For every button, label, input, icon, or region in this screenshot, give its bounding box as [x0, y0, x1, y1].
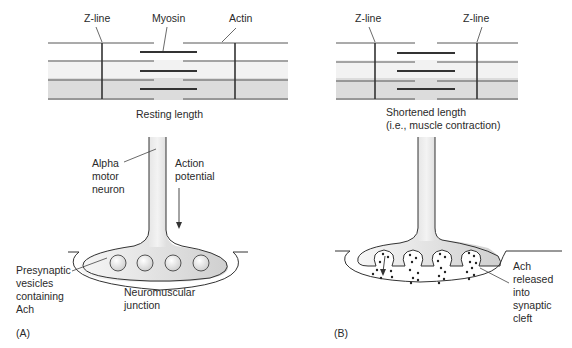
- panel-b: Z-line Z-line Shortened length (i.e., mu…: [334, 12, 562, 339]
- alpha-motor-neuron-label: Alpha motor neuron: [92, 157, 125, 195]
- sarcomere-shortened: [336, 27, 518, 100]
- neuromuscular-diagram: Z-line Myosin Actin Resting length: [0, 0, 572, 348]
- neuromuscular-junction-label: Neuromuscular junction: [123, 286, 198, 311]
- actin-label: Actin: [229, 12, 253, 24]
- ach-released-label: Ach released into synaptic cleft: [513, 260, 556, 324]
- panel-a: Z-line Myosin Actin Resting length: [16, 12, 288, 339]
- presynaptic-vesicles-label: Presynaptic vesicles containing Ach: [16, 264, 74, 315]
- z-line-right-label: Z-line: [463, 12, 489, 24]
- z-line-label: Z-line: [84, 12, 110, 24]
- sarcomere-resting: [48, 27, 288, 100]
- panel-b-tag: (B): [334, 327, 348, 339]
- shortened-length-label: Shortened length (i.e., muscle contracti…: [386, 106, 500, 131]
- action-potential-arrow: [176, 188, 182, 229]
- action-potential-label: Action potential: [175, 157, 215, 182]
- resting-length-label: Resting length: [136, 108, 203, 120]
- panel-a-tag: (A): [16, 327, 30, 339]
- z-line-left-label: Z-line: [355, 12, 381, 24]
- myosin-label: Myosin: [152, 12, 185, 24]
